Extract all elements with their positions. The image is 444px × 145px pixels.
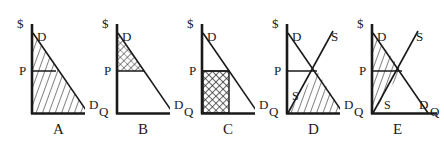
panel-caption: D	[308, 122, 319, 137]
panel-d: $ D S P S D Q D	[255, 0, 340, 145]
panel-c-graph	[170, 0, 255, 145]
y-axis-label: $	[272, 17, 279, 30]
y-axis-label: $	[357, 17, 364, 30]
supply-label-origin: S	[384, 99, 391, 111]
demand-label-top: D	[37, 30, 46, 43]
price-label: P	[359, 64, 366, 77]
panel-b: $ D P D Q B	[85, 0, 170, 145]
y-axis-label: $	[102, 17, 109, 30]
demand-label-bottom: D	[419, 98, 428, 111]
demand-label-top: D	[377, 30, 386, 43]
panel-b-graph	[85, 0, 170, 145]
supply-label-top: S	[416, 30, 423, 43]
panel-caption: B	[138, 122, 148, 137]
panel-e-graph	[340, 0, 444, 145]
supply-label-origin: S	[292, 90, 299, 102]
shaded-region	[203, 71, 229, 113]
panel-c: $ D P D Q C	[170, 0, 255, 145]
panel-a: $ D P D Q A	[0, 0, 85, 145]
panel-caption: A	[53, 122, 64, 137]
demand-label-top: D	[122, 30, 131, 43]
panel-d-graph	[255, 0, 340, 145]
demand-label-top: D	[292, 30, 301, 43]
demand-curve	[118, 33, 170, 113]
panel-e: $ D S P S D Q E	[340, 0, 425, 145]
price-label: P	[19, 64, 26, 77]
supply-label-top: S	[331, 30, 338, 43]
price-label: P	[104, 64, 111, 77]
x-axis-label: Q	[430, 105, 439, 118]
demand-label-top: D	[207, 30, 216, 43]
panel-a-graph	[0, 0, 85, 145]
y-axis-label: $	[187, 17, 194, 30]
price-label: P	[274, 64, 281, 77]
panel-caption: C	[223, 122, 233, 137]
y-axis-label: $	[17, 17, 24, 30]
supply-demand-figure: $ D P D Q A $ D P D Q B	[0, 0, 444, 145]
panel-caption: E	[393, 122, 402, 137]
price-label: P	[189, 64, 196, 77]
